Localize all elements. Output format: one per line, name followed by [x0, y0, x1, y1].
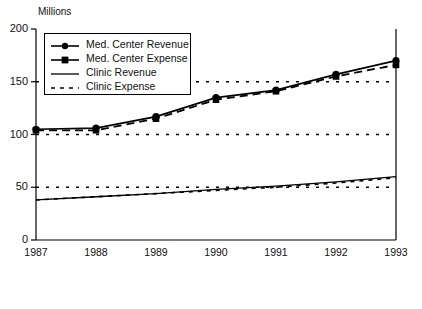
- data-point: [93, 127, 100, 134]
- legend-label: Clinic Revenue: [86, 66, 157, 78]
- x-tick-label: 1990: [191, 246, 241, 258]
- data-point: [273, 88, 280, 95]
- data-point: [393, 62, 400, 69]
- chart-container: Millions 050100150200 198719881989199019…: [0, 0, 422, 309]
- x-tick-label: 1987: [11, 246, 61, 258]
- data-point: [333, 73, 340, 80]
- legend-label: Med. Center Expense: [86, 52, 188, 64]
- x-tick-label: 1993: [371, 246, 421, 258]
- legend-swatch-circle-line: [50, 38, 80, 50]
- y-tick-label: 100: [0, 128, 28, 140]
- legend-item: Clinic Expense: [45, 79, 190, 93]
- data-point: [153, 115, 160, 122]
- y-tick-label: 0: [0, 233, 28, 245]
- x-tick-label: 1988: [71, 246, 121, 258]
- legend-label: Med. Center Revenue: [86, 38, 189, 50]
- legend-item: Med. Center Revenue: [45, 37, 190, 51]
- y-axis-ticks: [31, 29, 36, 240]
- y-tick-label: 150: [0, 75, 28, 87]
- legend-item: Clinic Revenue: [45, 65, 190, 79]
- legend-swatch-square-line: [50, 52, 80, 64]
- legend-swatch-solid-line: [50, 66, 80, 78]
- x-tick-label: 1989: [131, 246, 181, 258]
- legend-item: Med. Center Expense: [45, 51, 190, 65]
- x-tick-label: 1991: [251, 246, 301, 258]
- legend-label: Clinic Expense: [86, 80, 155, 92]
- y-tick-label: 50: [0, 180, 28, 192]
- legend-swatch-dotted-line: [50, 80, 80, 92]
- y-tick-label: 200: [0, 22, 28, 34]
- x-tick-label: 1992: [311, 246, 361, 258]
- data-point: [33, 127, 40, 134]
- data-point: [213, 96, 220, 103]
- chart-legend: Med. Center Revenue Med. Center Expense …: [44, 33, 191, 95]
